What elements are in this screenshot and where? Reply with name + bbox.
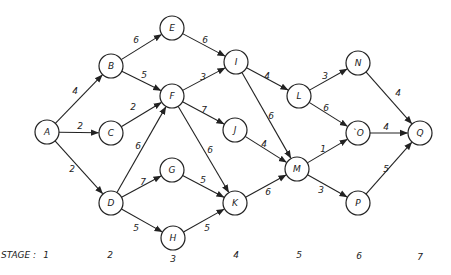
edge-weight-label: 2 bbox=[77, 121, 83, 131]
edge-b-e bbox=[121, 35, 161, 60]
node-i: I bbox=[224, 50, 248, 74]
node-label: `O bbox=[352, 128, 364, 138]
edge-weight-label: 4 bbox=[395, 88, 401, 98]
node-j: J bbox=[223, 118, 247, 142]
edge-weight-label: 5 bbox=[383, 164, 389, 174]
edge-weight-label: 4 bbox=[261, 139, 267, 149]
node-label: N bbox=[355, 58, 362, 68]
edge-a-b bbox=[55, 75, 102, 123]
node-l: L bbox=[287, 84, 311, 108]
edge-n-q bbox=[366, 72, 412, 124]
stage-number-7: 7 bbox=[417, 252, 423, 262]
node-c: C bbox=[99, 121, 123, 145]
node-h: H bbox=[161, 226, 185, 250]
edge-m-o bbox=[307, 139, 347, 163]
edge-l-n bbox=[309, 69, 347, 90]
edge-m-p bbox=[307, 175, 347, 197]
edge-weight-label: 6 bbox=[207, 145, 213, 155]
stage-number-1: 1 bbox=[43, 250, 49, 260]
edge-weight-label: 7 bbox=[201, 105, 207, 115]
node-a: A bbox=[35, 120, 59, 144]
stage-number-2: 2 bbox=[107, 250, 113, 260]
edge-weight-label: 5 bbox=[200, 175, 206, 185]
edge-weight-label: 3 bbox=[318, 185, 324, 195]
edge-weight-label: 4 bbox=[264, 71, 270, 81]
edge-weight-label: 7 bbox=[140, 177, 146, 187]
edge-weight-label: 6 bbox=[135, 141, 141, 151]
node-label: Q bbox=[416, 128, 423, 138]
node-m: M bbox=[285, 157, 309, 181]
edge-weight-label: 6 bbox=[202, 35, 208, 45]
edge-weight-label: 3 bbox=[200, 72, 206, 82]
edge-weight-label: 2 bbox=[130, 102, 136, 112]
stage-title: STAGE : bbox=[1, 250, 36, 260]
edge-weight-label: 4 bbox=[383, 122, 389, 132]
node-g: G bbox=[160, 158, 184, 182]
edge-weight-label: 5 bbox=[204, 223, 210, 233]
node-label: B bbox=[108, 61, 114, 71]
node-b: B bbox=[99, 54, 123, 78]
edge-weight-label: 6 bbox=[268, 111, 274, 121]
node-label: P bbox=[355, 198, 361, 208]
edge-weight-label: 6 bbox=[265, 187, 271, 197]
edge-d-h bbox=[121, 209, 162, 232]
edge-a-c bbox=[59, 132, 99, 133]
edge-c-f bbox=[121, 102, 161, 126]
stage-number-6: 6 bbox=[356, 251, 362, 261]
edge-weight-label: 5 bbox=[133, 223, 139, 233]
node-label: E bbox=[169, 23, 175, 33]
edge-weight-label: 1 bbox=[320, 144, 326, 154]
stage-axis: STAGE : 1234567 bbox=[1, 250, 423, 264]
node-label: D bbox=[108, 198, 115, 208]
edge-weight-label: 6 bbox=[323, 103, 329, 113]
edge-weight-label: 4 bbox=[72, 86, 78, 96]
node-k: K bbox=[223, 191, 247, 215]
node-label: C bbox=[108, 128, 115, 138]
stage-graph-diagram: 42265267563765546463613445 ABCDEFGHIJKLM… bbox=[0, 0, 451, 275]
node-label: A bbox=[43, 127, 50, 137]
node-label: G bbox=[169, 165, 176, 175]
stage-number-5: 5 bbox=[296, 250, 302, 260]
node-label: M bbox=[293, 164, 301, 174]
node-label: I bbox=[235, 57, 238, 67]
edge-weight-label: 6 bbox=[133, 35, 139, 45]
stage-number-3: 3 bbox=[170, 254, 176, 264]
node-d: D bbox=[99, 191, 123, 215]
edge-weight-label: 3 bbox=[322, 71, 328, 81]
stage-number-4: 4 bbox=[233, 250, 239, 260]
node-p: P bbox=[346, 191, 370, 215]
edge-a-d bbox=[55, 141, 103, 194]
node-q: Q bbox=[408, 121, 432, 145]
node-n: N bbox=[346, 51, 370, 75]
node-label: F bbox=[169, 91, 175, 101]
node-f: F bbox=[160, 84, 184, 108]
node-label: L bbox=[296, 91, 301, 101]
edge-weight-label: 5 bbox=[141, 70, 147, 80]
edge-weight-label: 2 bbox=[69, 164, 75, 174]
node-label: H bbox=[170, 233, 177, 243]
node-e: E bbox=[160, 16, 184, 40]
node-o: `O bbox=[346, 121, 370, 145]
